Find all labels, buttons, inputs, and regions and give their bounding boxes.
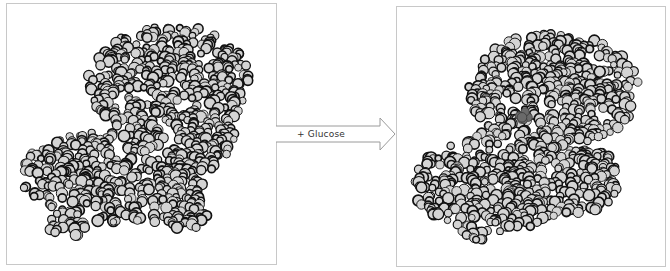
protein-panel-open: Hexokinase (open conformation) bbox=[6, 3, 277, 265]
protein-panel-closed: Hexokinase with bound glucose (closed co… bbox=[396, 6, 666, 267]
space-filling-protein-model bbox=[397, 7, 667, 268]
space-filling-protein-model bbox=[7, 4, 278, 266]
arrow-label: + Glucose bbox=[297, 127, 345, 141]
